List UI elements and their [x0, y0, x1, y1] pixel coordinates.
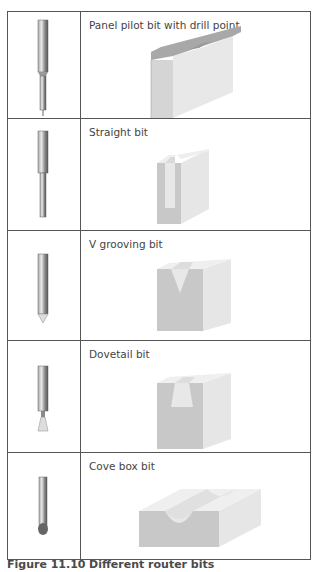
- router-bits-table: Panel pilot bit with drill point Straigh…: [7, 11, 311, 560]
- panel-pilot-cut-icon: [81, 12, 310, 118]
- v-groove-cut-icon: [81, 231, 310, 341]
- dovetail-bit-icon: [8, 341, 80, 453]
- straight-bit-icon: [8, 119, 80, 231]
- table-row: Cove box bit: [8, 452, 310, 559]
- table-row: V grooving bit: [8, 230, 310, 340]
- table-row: Dovetail bit: [8, 340, 310, 452]
- table-row: Panel pilot bit with drill point: [8, 12, 310, 118]
- table-row: Straight bit: [8, 118, 310, 230]
- dovetail-cut-icon: [81, 341, 310, 453]
- straight-cut-icon: [81, 119, 310, 231]
- v-grooving-bit-icon: [8, 231, 80, 341]
- figure-number: Figure 11.10: [7, 558, 86, 571]
- cove-cut-icon: [81, 453, 310, 560]
- panel-pilot-bit-icon: [8, 12, 80, 118]
- cove-box-bit-icon: [8, 453, 80, 560]
- figure-caption: Figure 11.10 Different router bits: [7, 558, 214, 571]
- figure-title: Different router bits: [89, 558, 214, 571]
